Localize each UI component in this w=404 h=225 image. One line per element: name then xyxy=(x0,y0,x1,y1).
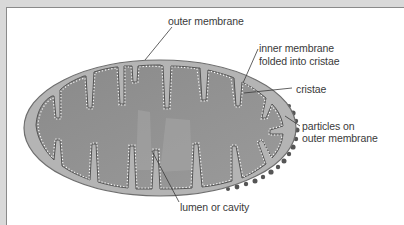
label-lumen: lumen or cavity xyxy=(180,201,249,213)
label-inner-membrane-line1: inner membrane xyxy=(259,42,334,54)
label-outer-membrane: outer membrane xyxy=(168,15,244,27)
label-cristae: cristae xyxy=(296,83,326,95)
label-particles-line2: outer membrane xyxy=(302,132,378,144)
inner-membrane-matrix xyxy=(36,65,283,189)
label-inner-membrane-line2: folded into cristae xyxy=(259,55,339,67)
leader-outer-membrane xyxy=(145,27,172,60)
mitochondrion-diagram xyxy=(0,0,404,225)
label-particles-line1: particles on xyxy=(302,120,355,132)
